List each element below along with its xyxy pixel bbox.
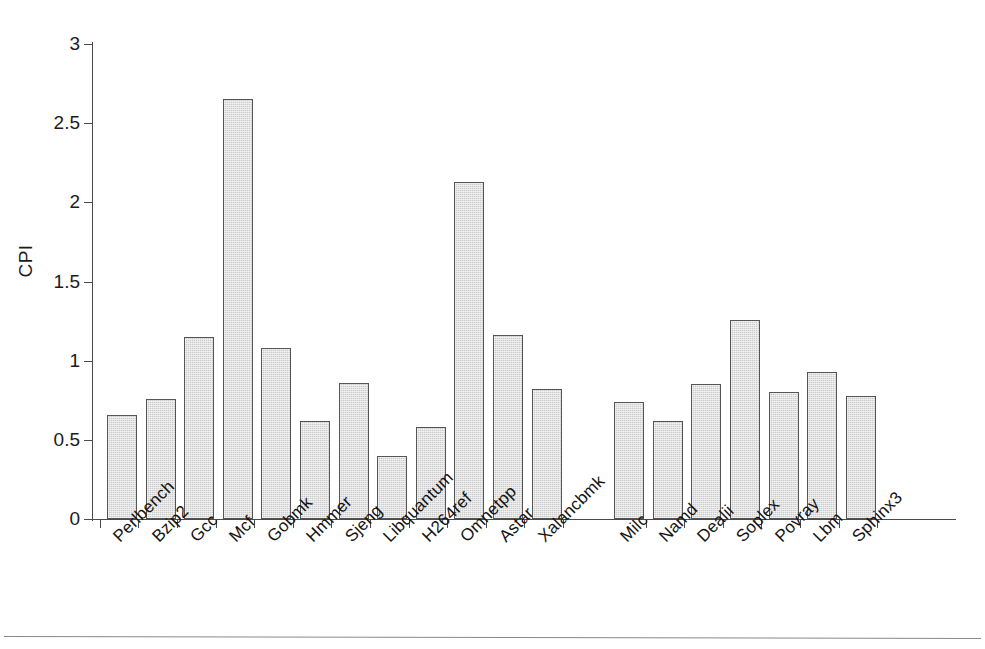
bar-xalancbmk [532, 389, 562, 519]
bar-mcf [223, 99, 253, 519]
y-tick-label: 3 [34, 34, 80, 53]
bar-soplex [730, 320, 760, 520]
bar-namd [653, 421, 683, 519]
x-tick-mark [100, 519, 101, 528]
bar-milc [614, 402, 644, 519]
bar-gcc [184, 337, 214, 519]
bar-sphinx3 [846, 396, 876, 520]
y-tick-mark [84, 202, 92, 203]
bar-dealii [691, 384, 721, 519]
y-tick-mark [84, 361, 92, 362]
bar-gobmk [261, 348, 291, 519]
y-tick-mark [84, 440, 92, 441]
page-bottom-rule [4, 636, 981, 639]
y-tick-mark [84, 44, 92, 45]
y-axis-line [92, 42, 93, 521]
y-tick-label: 2 [34, 192, 80, 211]
bar-omnetpp [454, 182, 484, 519]
y-tick-mark [84, 123, 92, 124]
y-tick-mark [84, 519, 92, 520]
y-tick-label: 0 [34, 509, 80, 528]
bar-perlbench [107, 415, 137, 520]
y-tick-label: 1.5 [34, 272, 80, 291]
y-tick-label: 2.5 [34, 113, 80, 132]
y-tick-mark [84, 282, 92, 283]
y-tick-label: 0.5 [34, 430, 80, 449]
cpi-bar-chart-figure: CPI 00.511.522.53 PerlbenchBzip2GccMcfGo… [0, 0, 985, 649]
y-tick-label: 1 [34, 351, 80, 370]
